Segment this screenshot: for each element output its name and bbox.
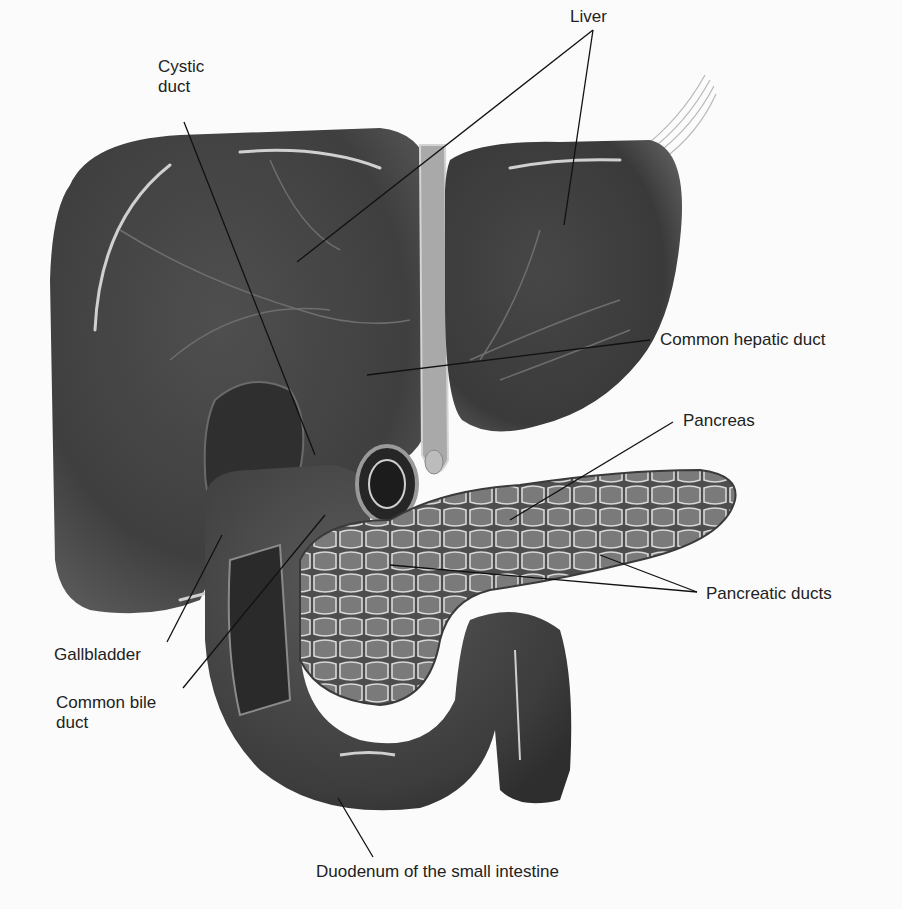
ligamentum-teres bbox=[425, 450, 443, 474]
falciform-ligament bbox=[420, 145, 448, 472]
label-common-bile-duct: Common bile duct bbox=[56, 693, 186, 733]
label-pancreatic-ducts: Pancreatic ducts bbox=[706, 584, 832, 604]
duodenum-inner-wall bbox=[229, 545, 290, 715]
liver-right-lobe bbox=[445, 140, 682, 431]
anatomy-illustration bbox=[0, 0, 902, 909]
label-pancreas: Pancreas bbox=[683, 411, 755, 431]
leader-line-pancreatic-ducts-2 bbox=[600, 555, 697, 592]
label-liver: Liver bbox=[570, 7, 607, 27]
label-duodenum: Duodenum of the small intestine bbox=[316, 862, 559, 882]
label-cystic-duct: Cystic duct bbox=[158, 57, 218, 97]
label-gallbladder: Gallbladder bbox=[54, 645, 141, 665]
label-common-hepatic-duct: Common hepatic duct bbox=[660, 330, 825, 350]
stomach-lumen bbox=[369, 460, 405, 508]
